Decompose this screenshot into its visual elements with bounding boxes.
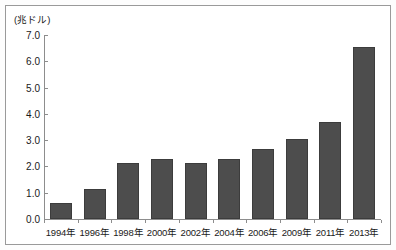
bar-slot [179, 35, 213, 219]
bar[interactable] [50, 203, 72, 219]
y-axis-tick-label: 0.0 [26, 214, 40, 225]
bar[interactable] [286, 139, 308, 219]
bar-slot [314, 35, 348, 219]
x-axis-tick-mark [314, 220, 315, 223]
x-axis-tick-mark [246, 220, 247, 223]
bar[interactable] [353, 47, 375, 219]
bar-slot [280, 35, 314, 219]
x-axis-tick-label: 2000年 [147, 225, 177, 239]
bar-slot [347, 35, 381, 219]
x-axis-tick-label: 2013年 [349, 225, 379, 239]
x-axis-tick-label: 2009年 [282, 225, 312, 239]
x-axis-tick-label: 1994年 [46, 225, 76, 239]
y-axis-tick-label: 3.0 [26, 135, 40, 146]
x-axis-tick-mark [213, 220, 214, 223]
x-axis-tick-label: 2006年 [248, 225, 278, 239]
y-axis-tick-label: 4.0 [26, 108, 40, 119]
y-axis-tick-label: 7.0 [26, 30, 40, 41]
x-axis-tick-mark [381, 220, 382, 223]
x-axis-tick-mark [280, 220, 281, 223]
x-axis-tick-mark [179, 220, 180, 223]
y-axis-tick-label: 6.0 [26, 56, 40, 67]
y-axis-tick-labels: 7.06.05.04.03.02.01.00.0 [0, 0, 40, 250]
x-axis-tick-mark [347, 220, 348, 223]
bar[interactable] [252, 149, 274, 219]
x-axis-tick-label: 1998年 [113, 225, 143, 239]
x-axis-tick-mark [44, 220, 45, 223]
x-axis-tick-label: 2004年 [214, 225, 244, 239]
bar[interactable] [151, 159, 173, 219]
bar[interactable] [117, 163, 139, 219]
x-axis-tick-label: 2002年 [181, 225, 211, 239]
x-axis-tick-label: 2011年 [316, 225, 345, 239]
y-axis-tick-label: 2.0 [26, 161, 40, 172]
chart-figure: (兆ドル) 7.06.05.04.03.02.01.00.0 1994年1996… [0, 0, 396, 250]
y-axis-tick-label: 1.0 [26, 187, 40, 198]
bar-slot [213, 35, 247, 219]
x-axis-tick-mark [111, 220, 112, 223]
bar-slot [44, 35, 78, 219]
plot-area [44, 35, 381, 219]
bar-slot [246, 35, 280, 219]
bar[interactable] [185, 163, 207, 219]
x-axis-tick-label: 1996年 [79, 225, 109, 239]
x-axis-tick-mark [145, 220, 146, 223]
bar-slot [145, 35, 179, 219]
bar-slot [111, 35, 145, 219]
bar[interactable] [218, 159, 240, 219]
bar-slot [78, 35, 112, 219]
bar[interactable] [84, 189, 106, 219]
y-axis-tick-label: 5.0 [26, 82, 40, 93]
bar[interactable] [319, 122, 341, 219]
x-axis-tick-mark [78, 220, 79, 223]
